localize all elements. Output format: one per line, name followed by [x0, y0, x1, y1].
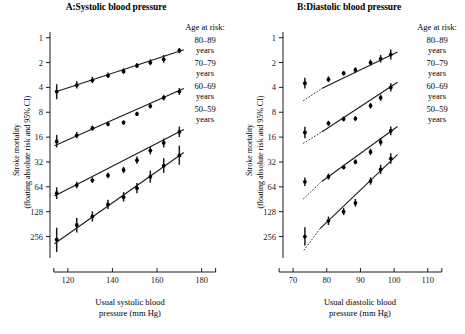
data-point [90, 178, 94, 182]
panel-diastolic: B:Diastolic blood pressure 2561286432168… [233, 0, 465, 334]
data-point [369, 104, 373, 108]
data-point [148, 61, 152, 65]
legend-unit: years [178, 45, 232, 55]
data-point [162, 141, 166, 145]
panel-b-ylabel-line1: Stroke mortality [245, 75, 254, 225]
data-point [75, 223, 79, 227]
y-tick-label: 16 [35, 132, 44, 142]
series-6069 [303, 127, 398, 199]
data-point [55, 90, 59, 94]
data-point [342, 210, 346, 214]
series-8089 [55, 48, 184, 99]
x-tick-label: 180 [195, 275, 208, 285]
x-tick-label: 110 [422, 275, 434, 285]
y-tick-label: 1 [39, 33, 43, 43]
legend-range: 70–79 [178, 58, 232, 68]
panel-b-xlabel-line2: pressure (mm Hg) [285, 308, 435, 319]
data-point [162, 164, 166, 168]
x-tick-label: 160 [151, 275, 164, 285]
data-point [148, 104, 152, 108]
data-point [55, 238, 59, 242]
panel-b-legend: Age at risk: 80–89 years 70–79 years 60–… [409, 22, 465, 124]
y-tick-label: 128 [263, 207, 276, 217]
data-point [327, 78, 331, 82]
data-point [135, 64, 139, 68]
legend-unit: years [409, 91, 465, 101]
series-5059 [54, 146, 183, 252]
legend-item-60-69: 60–69 years [409, 81, 465, 101]
data-point [177, 130, 181, 134]
data-point [389, 53, 393, 57]
legend-item-50-59: 50–59 years [178, 104, 232, 124]
legend-unit: years [178, 91, 232, 101]
data-point [303, 180, 307, 184]
y-tick-label: 2 [272, 58, 276, 68]
legend-item-80-89: 80–89 years [178, 35, 232, 55]
data-point [90, 215, 94, 219]
y-tick-label: 4 [272, 82, 277, 92]
data-point [135, 158, 139, 162]
legend-item-50-59: 50–59 years [409, 104, 465, 124]
legend-range: 80–89 [178, 35, 232, 45]
legend-range: 50–59 [178, 104, 232, 114]
data-point [379, 57, 383, 61]
data-point [75, 183, 79, 187]
y-tick-label: 64 [35, 182, 44, 192]
y-tick-label: 64 [268, 182, 277, 192]
data-point [353, 201, 357, 205]
data-point [379, 168, 383, 172]
data-point [369, 150, 373, 154]
data-point [122, 195, 126, 199]
panel-a-ylabel-line2: (floating absolute risk and 95% CI) [23, 42, 32, 262]
data-point [55, 140, 59, 144]
legend-unit: years [409, 45, 465, 55]
data-point [148, 175, 152, 179]
data-point [106, 203, 110, 207]
panel-a-ylabel-line1: Stroke mortality [12, 75, 21, 225]
legend-range: 80–89 [409, 35, 465, 45]
data-point [122, 168, 126, 172]
data-point [342, 117, 346, 121]
legend-range: 70–79 [409, 58, 465, 68]
series-5059 [303, 153, 398, 250]
data-point [90, 78, 94, 82]
legend-range: 60–69 [178, 81, 232, 91]
data-point [379, 140, 383, 144]
data-point [389, 157, 393, 161]
y-tick-label: 256 [263, 232, 276, 242]
y-tick-label: 4 [39, 82, 44, 92]
legend-item-70-79: 70–79 years [178, 58, 232, 78]
y-tick-label: 8 [272, 107, 276, 117]
x-tick-label: 120 [61, 275, 74, 285]
data-point [162, 96, 166, 100]
data-point [122, 121, 126, 125]
series-8089 [303, 50, 398, 101]
x-tick-label: 140 [106, 275, 119, 285]
data-point [353, 160, 357, 164]
data-point [342, 165, 346, 169]
data-point [148, 149, 152, 153]
legend-title: Age at risk: [409, 22, 465, 32]
data-point [122, 70, 126, 74]
x-tick-label: 70 [289, 275, 298, 285]
data-point [106, 122, 110, 126]
x-tick-label: 90 [356, 275, 365, 285]
panel-b-xlabel-line1: Usual diastolic blood [285, 297, 435, 308]
data-point [353, 117, 357, 121]
data-point [135, 186, 139, 190]
data-point [327, 121, 331, 125]
panel-a-xlabel-line2: pressure (mm Hg) [55, 308, 205, 319]
legend-unit: years [409, 114, 465, 124]
data-point [135, 112, 139, 116]
data-point [379, 96, 383, 100]
panel-b-ylabel-line2: (floating absolute risk and 95% CI) [256, 42, 265, 262]
legend-range: 60–69 [409, 81, 465, 91]
y-tick-label: 128 [30, 207, 43, 217]
legend-item-80-89: 80–89 years [409, 35, 465, 55]
legend-title: Age at risk: [178, 22, 232, 32]
panel-a-legend: Age at risk: 80–89 years 70–79 years 60–… [178, 22, 232, 124]
data-point [369, 61, 373, 65]
data-point [90, 126, 94, 130]
panel-systolic: A:Systolic blood pressure 25612864321684… [0, 0, 232, 334]
panel-a-xlabel-line1: Usual systolic blood [55, 297, 205, 308]
